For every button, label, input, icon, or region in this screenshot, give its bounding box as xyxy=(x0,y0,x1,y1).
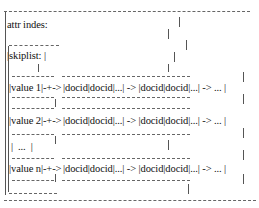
row2-top-border xyxy=(12,108,54,109)
row1-top-border xyxy=(12,76,54,77)
rown-chain-bottom xyxy=(62,180,190,181)
skiplist-top-border xyxy=(9,45,59,46)
skiplist-label: |skiplist: | xyxy=(7,50,46,62)
right-bar-4 xyxy=(243,150,244,160)
row1-chain-top xyxy=(62,76,190,77)
stray-bar-6 xyxy=(38,64,39,72)
row1-chain-bottom xyxy=(62,97,190,98)
box-right-bar-3 xyxy=(55,174,56,182)
row2-bottom-border xyxy=(12,134,54,135)
outer-left-border xyxy=(5,12,6,195)
stray-bar-3 xyxy=(186,40,187,50)
right-bar-3 xyxy=(243,128,244,138)
row2-chain-top xyxy=(62,108,190,109)
row2-chain-bottom xyxy=(62,134,190,135)
box-right-bar-2 xyxy=(55,136,56,144)
row1-value: |value 1|-+-> xyxy=(9,82,61,94)
mid-bar-2 xyxy=(188,184,189,194)
stray-bar-5 xyxy=(168,64,169,72)
rown-value: |value n|-+-> xyxy=(9,163,61,175)
row2-value: |value 2|-+-> xyxy=(9,115,61,127)
rown-bottom-border xyxy=(12,180,54,181)
rown-top-border xyxy=(12,158,54,159)
right-bar-5 xyxy=(243,174,244,184)
ellipsis-row: | ... | xyxy=(11,141,33,153)
right-bar-2 xyxy=(243,94,244,104)
rown-chain-top xyxy=(62,158,190,159)
mid-bar-1 xyxy=(168,140,169,150)
outer-bottom-border xyxy=(4,200,256,201)
stray-bar-2 xyxy=(168,29,169,39)
row1-bottom-border xyxy=(12,97,54,98)
skiplist-bottom-border xyxy=(9,193,57,194)
row2-chain: |docid|docid|...| -> |docid|docid|...| -… xyxy=(63,115,226,127)
stray-bar-1 xyxy=(179,17,180,27)
attr-index-label: attr indes: xyxy=(7,19,48,31)
rown-chain: |docid|docid|...| -> |docid|docid|...| -… xyxy=(63,163,226,175)
stray-bar-4 xyxy=(174,52,175,62)
right-bar-1 xyxy=(243,72,244,82)
box-right-bar-1 xyxy=(55,99,56,107)
outer-top-border xyxy=(4,11,250,12)
row1-chain: |docid|docid|...| -> |docid|docid|...| -… xyxy=(63,82,226,94)
